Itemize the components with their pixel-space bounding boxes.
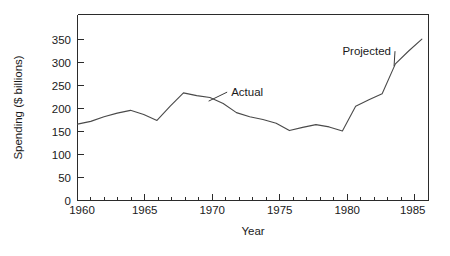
y-tick-label-350: 350: [52, 34, 71, 46]
x-axis-ticks: [78, 194, 415, 201]
x-tick-label-1965: 1965: [132, 204, 158, 216]
x-tick-label-1970: 1970: [199, 204, 225, 216]
chart-container: 0 50 100 150 200 250 300 350 Spending ($…: [0, 0, 450, 256]
x-tick-label-1980: 1980: [334, 204, 360, 216]
y-tick-label-100: 100: [52, 149, 71, 161]
y-axis-tick-labels: 0 50 100 150 200 250 300 350: [52, 34, 71, 207]
y-tick-label-300: 300: [52, 57, 71, 69]
x-tick-label-1960: 1960: [69, 204, 95, 216]
x-tick-label-1985: 1985: [400, 204, 426, 216]
plot-frame: [78, 15, 429, 201]
x-axis-title: Year: [241, 225, 264, 237]
x-axis-tick-labels: 1960 1965 1970 1975 1980 1985: [69, 204, 425, 216]
x-axis-minor-ticks: [91, 197, 402, 201]
y-tick-label-250: 250: [52, 80, 71, 92]
y-axis-ticks: [78, 40, 84, 201]
y-axis-title: Spending ($ billions): [12, 55, 24, 159]
x-tick-label-1975: 1975: [267, 204, 293, 216]
annotation-projected-label: Projected: [342, 45, 391, 57]
y-tick-label-50: 50: [58, 172, 71, 184]
axis-box: [78, 15, 429, 201]
annotation-actual: Actual: [209, 86, 263, 102]
annotation-actual-leader-line: [209, 92, 228, 101]
y-tick-label-150: 150: [52, 126, 71, 138]
annotation-actual-label: Actual: [231, 86, 263, 98]
y-tick-label-200: 200: [52, 103, 71, 115]
spending-line-chart: 0 50 100 150 200 250 300 350 Spending ($…: [0, 0, 450, 256]
annotation-projected: Projected: [342, 45, 395, 67]
